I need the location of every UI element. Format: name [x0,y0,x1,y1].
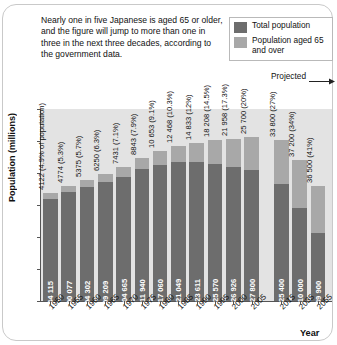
y-axis-label: Population (millions) [7,113,17,202]
x-tick-mark [197,301,198,305]
x-tick-mark [124,301,125,305]
bar-segment-elderly [311,186,326,233]
bar-1975: 111 9408843 (7.9%) [135,158,150,301]
bar-value-elderly: 37 200 (34%) [286,112,295,158]
y-tick-mark [37,269,41,270]
x-tick-mark [233,301,234,305]
bar-segment-elderly [116,167,131,177]
bar-segment-elderly [153,151,168,165]
bar-value-elderly: 4122 (4.9% of population) [37,103,46,190]
bar-segment-elderly [135,158,150,169]
bar-value-elderly: 12 468 (10.3%) [165,91,174,143]
x-tick-mark [69,301,70,305]
x-tick-mark [281,301,282,305]
bar-1950: 84 1154122 (4.9% of population) [43,193,58,301]
legend-item-total: Total population [234,21,329,33]
bar-segment-elderly [43,193,58,198]
bar-value-elderly: 14 833 (12%) [183,94,192,140]
bar-segment-elderly [189,143,204,162]
arrow-right-icon [309,78,335,85]
bar-segment-elderly [171,146,186,162]
x-tick-mark [178,301,179,305]
bar-segment-elderly [61,186,76,192]
bar-1965: 99 2096250 (6.3%) [98,174,113,301]
bar-value-elderly: 10 653 (9.1%) [147,100,156,148]
bar-value-elderly: 21 958 (17.3%) [220,84,229,136]
bar-value-elderly: 8843 (7.9%) [128,113,137,154]
legend-label-elderly: Population aged 65 and over [252,36,329,56]
bar-value-elderly: 5375 (5.7%) [73,136,82,177]
bar-value-elderly: 33 800 (27%) [268,92,277,138]
legend-label-total: Total population [252,21,310,31]
x-axis-label: Year [300,328,319,338]
bar-segment-elderly [208,140,223,163]
chart-panel: Nearly one in five Japanese is aged 65 o… [2,4,333,341]
bar-value-elderly: 7431 (7.1%) [110,123,119,164]
x-tick-mark [142,301,143,305]
bar-2005: 127 80025 700 (20%) [244,137,259,301]
bar-value-elderly: 18 208 (14.5%) [202,85,211,137]
y-tick-mark [37,237,41,238]
bar-2000: 126 92621 958 (17.3%) [226,139,241,301]
bar-1960: 94 3025375 (5.7%) [80,180,95,301]
x-tick-mark [50,301,51,305]
y-tick-mark [37,205,41,206]
legend-item-elderly: Population aged 65 and over [234,36,329,56]
x-tick-mark [252,301,253,305]
legend-swatch-total [234,22,247,33]
bar-value-elderly: 25 700 (20%) [238,89,247,135]
bar-value-elderly: 36 500 (41%) [304,137,313,183]
bar-value-elderly: 4774 (5.3%) [55,141,64,182]
x-tick-mark [300,301,301,305]
bar-1995: 125 57018 208 (14.5%) [208,140,223,301]
bar-2015: 125 40033 800 (27%) [274,140,289,301]
x-tick-mark [87,301,88,305]
x-tick-mark [105,301,106,305]
bar-1990: 123 61114 833 (12%) [189,143,204,301]
bar-1970: 104 6657431 (7.1%) [116,167,131,301]
bar-1980: 117 06010 653 (9.1%) [153,151,168,301]
bar-2055: 89 90036 500 (41%) [311,186,326,301]
x-tick-mark [215,301,216,305]
projected-annotation: Projected [271,71,306,81]
bar-value-elderly: 6250 (6.3%) [92,130,101,171]
y-tick-mark [37,301,41,302]
bar-segment-elderly [244,137,259,170]
legend-swatch-elderly [234,37,247,48]
bar-segment-elderly [226,139,241,167]
bar-1955: 90 0774774 (5.3%) [61,186,76,301]
chart-legend: Total population Population aged 65 and … [229,17,333,61]
x-tick-mark [160,301,161,305]
bar-1985: 121 04912 468 (10.3%) [171,146,186,301]
bar-segment-elderly [80,180,95,187]
x-tick-mark [318,301,319,305]
intro-text: Nearly one in five Japanese is aged 65 o… [41,15,223,60]
bar-segment-elderly [98,174,113,182]
